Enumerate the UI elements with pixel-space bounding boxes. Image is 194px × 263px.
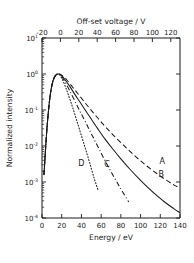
x-tick-label: 80 xyxy=(116,222,125,230)
y-tick-label: 10-4 xyxy=(24,214,38,223)
y-tick-label: 100 xyxy=(26,70,38,79)
secondary-x-tick-label: 0 xyxy=(58,29,62,37)
curve-label-d: D xyxy=(78,159,84,168)
x-tick-label: 40 xyxy=(77,222,86,230)
x-tick-label: 20 xyxy=(57,222,66,230)
secondary-x-tick-label: 80 xyxy=(130,29,139,37)
y-tick-label: 10-2 xyxy=(24,142,38,151)
x-axis-title: Energy / eV xyxy=(89,233,134,242)
secondary-x-axis-title: Off-set voltage / V xyxy=(77,17,147,26)
y-tick-label: 10-3 xyxy=(24,178,38,187)
secondary-x-tick-label: 120 xyxy=(164,29,177,37)
y-tick-label: 101 xyxy=(26,34,38,43)
curve-c xyxy=(44,74,129,202)
x-tick-label: 140 xyxy=(173,222,186,230)
x-tick-label: 100 xyxy=(134,222,147,230)
x-tick-label: 0 xyxy=(40,222,44,230)
secondary-x-tick-label: 60 xyxy=(111,29,120,37)
x-tick-label: 60 xyxy=(97,222,106,230)
curve-label-c: C xyxy=(104,160,110,169)
curve-b xyxy=(44,74,180,213)
plot-frame xyxy=(42,38,180,218)
secondary-x-tick-label: 100 xyxy=(146,29,159,37)
secondary-x-tick-label: 20 xyxy=(74,29,83,37)
curve-label-b: B xyxy=(159,170,165,179)
y-tick-label: 10-1 xyxy=(24,106,38,115)
semilog-energy-distribution-chart: 020406080100120140Energy / eV-2002040608… xyxy=(0,0,194,263)
chart-figure: 020406080100120140Energy / eV-2002040608… xyxy=(0,0,194,263)
curve-label-a: A xyxy=(160,157,166,166)
x-tick-label: 120 xyxy=(154,222,167,230)
curve-d xyxy=(44,74,98,191)
y-axis-title: Normalized intensity xyxy=(5,88,14,167)
secondary-x-tick-label: 40 xyxy=(93,29,102,37)
